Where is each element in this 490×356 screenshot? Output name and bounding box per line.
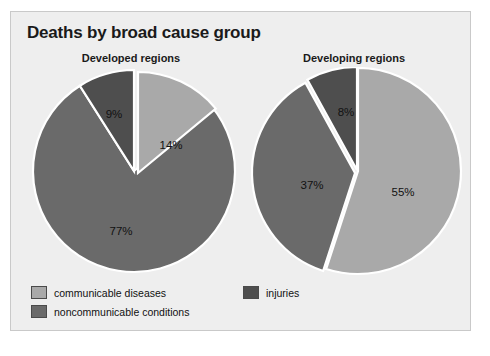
pie-label-noncommunicable: 77% [109,225,132,237]
pie-slices-developed [33,70,235,272]
pie-label-communicable: 55% [391,186,414,198]
pie-title-developing: Developing regions [239,52,469,64]
pie-title-developed: Developed regions [11,52,251,64]
legend-item-injuries[interactable]: injuries [243,286,299,299]
pie-label-communicable: 14% [159,139,182,151]
legend: communicable diseases noncommunicable co… [31,284,456,324]
pie-chart-developing: 55% 37% 8% [246,67,471,279]
pie-slices-developing [252,67,461,274]
page-title: Deaths by broad cause group [27,23,261,43]
legend-swatch-noncommunicable [31,305,47,318]
legend-swatch-communicable [31,286,47,299]
legend-item-communicable[interactable]: communicable diseases [31,286,166,299]
legend-item-noncommunicable[interactable]: noncommunicable conditions [31,305,189,318]
pie-label-injuries: 9% [106,108,123,120]
legend-label-injuries: injuries [266,287,299,299]
pie-svg-developed: 14% 77% 9% [21,67,246,279]
legend-label-noncommunicable: noncommunicable conditions [54,306,189,318]
legend-label-communicable: communicable diseases [54,287,166,299]
pie-label-noncommunicable: 37% [300,179,323,191]
legend-swatch-injuries [243,286,259,299]
pie-chart-developed: 14% 77% 9% [21,67,246,279]
pie-svg-developing: 55% 37% 8% [246,67,471,279]
pie-label-injuries: 8% [338,106,355,118]
chart-panel: Deaths by broad cause group Developed re… [10,11,471,331]
